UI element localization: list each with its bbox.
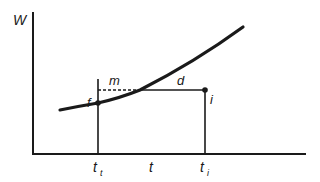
svg-text:t: t [149, 159, 154, 175]
svg-text:t: t [200, 159, 205, 175]
svg-text:i: i [207, 168, 210, 178]
tick-label-t: t [149, 159, 154, 175]
label-d: d [177, 73, 185, 88]
point-i [202, 87, 208, 93]
label-i: i [210, 92, 214, 107]
point-f [95, 100, 101, 106]
tick-label-t-i: t i [200, 159, 210, 178]
tick-label-t-t: t t [93, 159, 103, 178]
y-axis-label: W [13, 12, 28, 28]
svg-text:t: t [93, 159, 98, 175]
label-m: m [109, 73, 120, 88]
diagram: W m d f i t t t t i [0, 0, 320, 182]
label-f: f [87, 95, 92, 110]
svg-text:t: t [100, 168, 103, 178]
